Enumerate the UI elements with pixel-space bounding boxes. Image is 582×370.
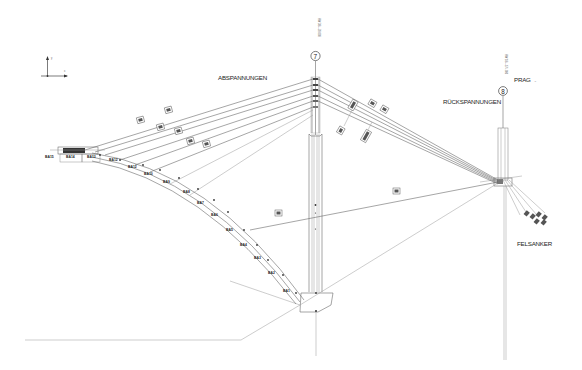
pylon-7: HW 384+20.000 7 xyxy=(300,18,333,356)
segment-label: BA8 xyxy=(183,190,190,194)
segment-label: BA6 xyxy=(211,213,218,217)
segment-label: BA9 xyxy=(163,180,170,184)
segment-label: BA3 xyxy=(254,256,261,260)
segment-label: BA13 xyxy=(87,155,96,159)
axis-indicator: y x xyxy=(41,56,68,78)
label-prag: PRAG xyxy=(514,76,531,83)
segment-label: BA4 xyxy=(240,243,247,247)
prag-arrow: → xyxy=(534,80,537,83)
label-felsanker: FELSANKER xyxy=(517,240,553,247)
segment-label: BA15 xyxy=(45,155,54,159)
left-anchorage xyxy=(50,147,105,162)
axis-y-label: y xyxy=(51,57,53,60)
label-abspannungen: ABSPANNUNGEN xyxy=(218,74,267,81)
arch-deck xyxy=(92,153,304,304)
axis-x-label: x xyxy=(64,70,66,73)
pylon-8-station: HW 184+174.000 xyxy=(504,54,508,75)
ground-line xyxy=(25,183,498,340)
pylon-7-station: HW 384+20.000 xyxy=(317,18,321,37)
segment-label: BA14 xyxy=(66,155,75,159)
segment-label: BA7 xyxy=(197,201,204,205)
segment-label: BA10 xyxy=(144,172,153,176)
segment-label: BA5 xyxy=(226,228,233,232)
segment-label: BA2 xyxy=(268,271,275,275)
segment-label: BA1 xyxy=(283,289,290,293)
segment-label: BA12 xyxy=(109,158,118,162)
label-rueckspannungen: RÜCKSPANNUNGEN xyxy=(443,98,501,105)
pylon-8-number: 8 xyxy=(501,88,505,95)
pylon-7-number: 7 xyxy=(314,53,318,60)
bridge-drawing: y x ABSPANNUNGEN RÜCKSPANNUNGEN FELSANKE… xyxy=(0,0,582,370)
segment-labels: BA15 BA14 BA13 BA12 BA12 BA10 BA9 BA8 BA… xyxy=(45,155,290,293)
segment-label: BA12 xyxy=(128,165,137,169)
stay-cables-back xyxy=(85,79,313,195)
